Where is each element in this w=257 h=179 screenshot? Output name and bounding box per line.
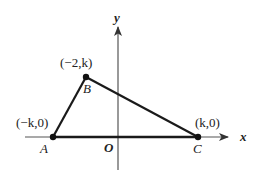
y-axis-label: y [112, 10, 120, 25]
segment-ab [53, 77, 86, 137]
point-a-marker [50, 134, 56, 140]
point-c-label: C [193, 141, 202, 156]
point-b-coord-label: (−2,k) [60, 55, 92, 70]
point-c-coord-label: (k,0) [195, 115, 220, 130]
point-a-label: A [39, 141, 48, 156]
x-axis-label: x [239, 129, 247, 144]
point-b-marker [83, 74, 89, 80]
triangle-coordinate-diagram: x y O A B C (−k,0) (−2,k) (k,0) [0, 0, 257, 179]
point-b-label: B [83, 81, 91, 96]
point-a-coord-label: (−k,0) [16, 115, 48, 130]
segment-bc [86, 77, 198, 137]
point-c-marker [195, 134, 201, 140]
origin-label: O [104, 140, 114, 155]
